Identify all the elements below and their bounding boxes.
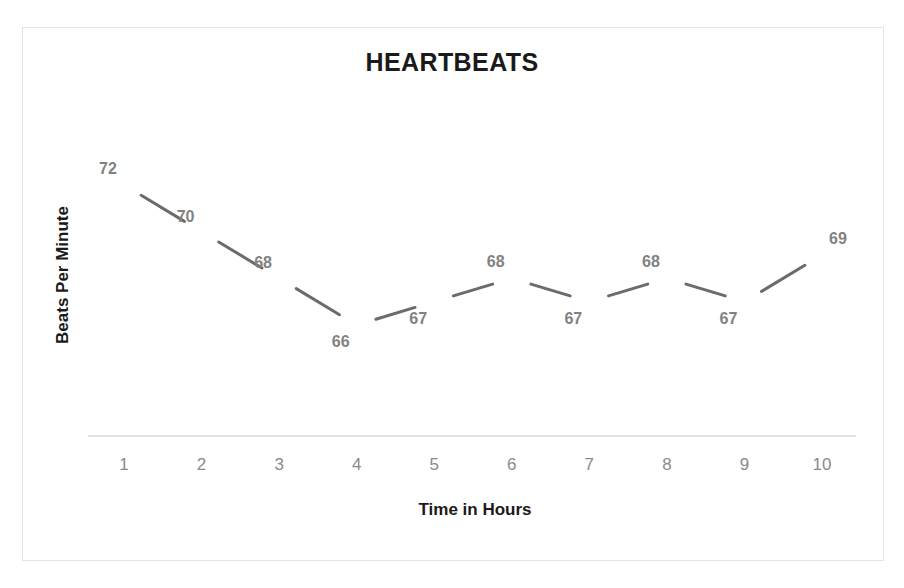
data-series-segment [686,284,725,296]
x-tick-label: 6 [492,455,532,475]
data-point-label: 70 [177,208,195,226]
data-point-label: 66 [332,333,350,351]
x-tick-label: 1 [104,455,144,475]
data-series-segment [453,284,492,296]
x-tick-label: 8 [647,455,687,475]
data-series-segment [762,265,805,291]
data-series-segment [531,284,570,296]
data-point-label: 67 [564,310,582,328]
x-tick-label: 2 [182,455,222,475]
data-point-label: 67 [720,310,738,328]
x-tick-label: 7 [569,455,609,475]
chart-canvas: HEARTBEATS Beats Per Minute 12345678910 … [0,0,904,588]
x-tick-label: 4 [337,455,377,475]
data-point-label: 68 [254,254,272,272]
data-series-segment [296,289,339,315]
data-series-segment [608,284,647,296]
x-tick-label: 5 [414,455,454,475]
data-point-label: 68 [642,253,660,271]
data-point-label: 68 [487,253,505,271]
data-point-label: 69 [829,230,847,248]
data-point-label: 67 [409,310,427,328]
x-tick-label: 9 [724,455,764,475]
x-tick-label: 3 [259,455,299,475]
data-point-label: 72 [99,160,117,178]
x-tick-label: 10 [802,455,842,475]
x-axis-title: Time in Hours [90,500,860,520]
